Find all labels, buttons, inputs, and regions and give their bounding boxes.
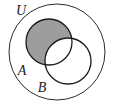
venn-diagram-canvas: U A B xyxy=(0,0,115,104)
set-b-label: B xyxy=(38,80,47,95)
universal-set-label: U xyxy=(16,3,27,18)
set-a-label: A xyxy=(17,63,27,78)
venn-diagram-figure: U A B xyxy=(0,0,115,104)
